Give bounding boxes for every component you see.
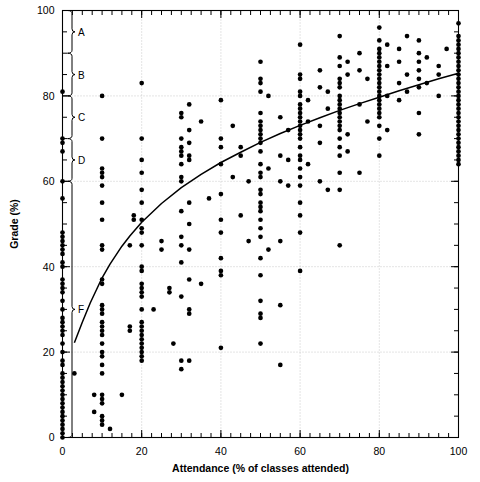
data-point [187,358,192,363]
data-point [100,247,105,252]
data-point [337,98,342,103]
data-point [139,226,144,231]
data-point [258,170,263,175]
data-point [100,350,105,355]
x-tick-label: 0 [60,445,66,457]
data-point [179,260,184,265]
data-point [258,311,263,316]
data-point [385,128,390,133]
data-point [199,119,204,124]
data-point [219,269,224,274]
data-point [139,230,144,235]
data-point [100,354,105,359]
data-point [187,200,192,205]
data-point [377,98,382,103]
data-point [278,363,283,368]
data-point [258,205,263,210]
data-point [325,106,330,111]
data-point [139,286,144,291]
x-tick-label: 40 [215,445,227,457]
data-point [100,303,105,308]
data-point [92,410,97,415]
data-point [318,141,323,146]
data-point [298,158,303,163]
data-point [424,55,429,60]
data-point [298,166,303,171]
y-tick-label: 20 [43,346,55,358]
data-point [139,350,144,355]
data-point [337,76,342,81]
data-point [298,115,303,120]
data-point [100,371,105,376]
data-point [377,64,382,69]
data-point [258,111,263,116]
data-point [337,85,342,90]
data-point [298,230,303,235]
data-point [318,179,323,184]
data-point [246,239,251,244]
data-point [345,132,350,137]
data-point [100,363,105,368]
data-point [405,72,410,77]
data-point [171,341,176,346]
data-point [219,192,224,197]
data-point [258,76,263,81]
data-point [377,81,382,86]
data-point [377,106,382,111]
data-point [100,333,105,338]
data-point [120,392,125,397]
data-point [377,111,382,116]
data-point [377,102,382,107]
data-point [179,153,184,158]
data-point [337,81,342,86]
data-point [417,68,422,73]
data-point [298,183,303,188]
data-point [100,414,105,419]
data-point [167,290,172,295]
data-point [219,136,224,141]
data-point [318,68,323,73]
data-point [151,307,156,312]
data-point [139,328,144,333]
data-point [258,81,263,86]
data-point [337,243,342,248]
data-point [365,76,370,81]
data-point [258,217,263,222]
data-point [258,234,263,239]
data-point [258,209,263,214]
data-point [298,106,303,111]
data-point [139,269,144,274]
data-point [179,162,184,167]
data-point [187,222,192,227]
data-point [219,256,224,261]
data-point [179,179,184,184]
data-point [238,145,243,150]
data-point [337,153,342,158]
data-point [278,153,283,158]
data-point [298,136,303,141]
data-point [298,132,303,137]
data-point [179,234,184,239]
data-point [286,183,291,188]
data-point [357,51,362,56]
data-point [100,94,105,99]
data-point [298,102,303,107]
data-point [325,89,330,94]
data-point [417,51,422,56]
x-tick-label: 60 [294,445,306,457]
data-point [187,307,192,312]
data-point [258,136,263,141]
data-point [377,153,382,158]
data-point [187,102,192,107]
data-point [397,47,402,52]
x-tick-label: 80 [373,445,385,457]
data-point [246,179,251,184]
y-tick-label: 0 [49,431,55,443]
data-point [258,192,263,197]
data-point [377,136,382,141]
data-point [377,55,382,60]
data-point [139,200,144,205]
data-point [337,170,342,175]
data-point [377,38,382,43]
data-point [266,166,271,171]
